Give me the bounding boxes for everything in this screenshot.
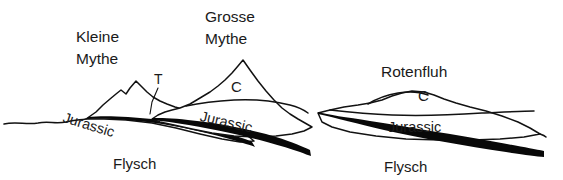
label-flysch-right: Flysch bbox=[384, 158, 427, 175]
label-jurassic-rotenfluh: Jurassic bbox=[388, 119, 441, 135]
cross-section-drawing: Kleine Mythe Grosse Mythe Rotenfluh T C … bbox=[0, 0, 563, 180]
rotenfluh-right-tip bbox=[540, 134, 546, 137]
label-flysch-left: Flysch bbox=[113, 155, 156, 172]
label-kleine-mythe-line2: Mythe bbox=[76, 50, 118, 67]
label-rotenfluh: Rotenfluh bbox=[381, 63, 447, 80]
geological-cross-section-figure: Kleine Mythe Grosse Mythe Rotenfluh T C … bbox=[0, 0, 563, 180]
label-grosse-mythe-line1: Grosse bbox=[205, 8, 255, 25]
label-thrust-t: T bbox=[154, 71, 163, 87]
label-cretaceous-grosse-mythe: C bbox=[231, 78, 242, 95]
label-cretaceous-rotenfluh: C bbox=[418, 87, 429, 104]
label-grosse-mythe-line2: Mythe bbox=[205, 30, 247, 47]
label-kleine-mythe-line1: Kleine bbox=[76, 28, 119, 45]
